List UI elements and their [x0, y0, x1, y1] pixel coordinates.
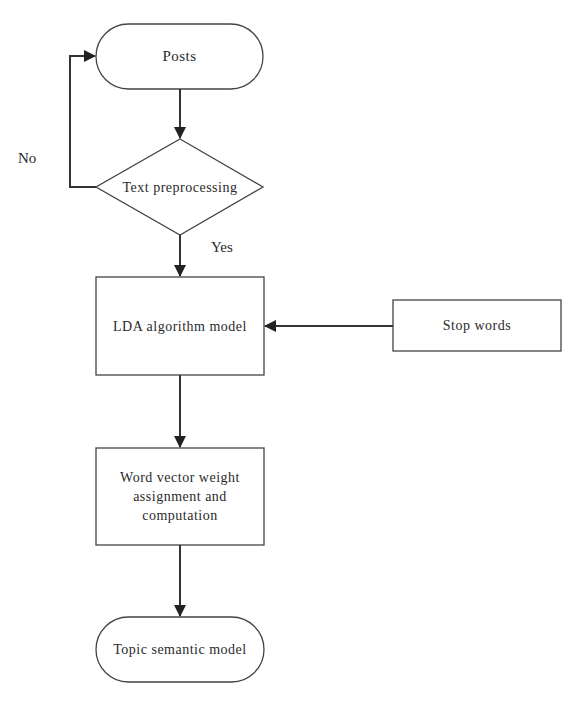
word-vector-label: Word vector weight assignment and comput…	[100, 448, 260, 545]
edge-label-yes: Yes	[211, 239, 233, 256]
edge-label-no: No	[18, 150, 36, 167]
posts-label: Posts	[96, 24, 263, 89]
text-preprocessing-label: Text preprocessing	[110, 165, 250, 209]
topic-model-label: Topic semantic model	[104, 617, 256, 682]
lda-label: LDA algorithm model	[110, 277, 250, 375]
stop-words-label: Stop words	[393, 300, 561, 351]
edge-no-loop	[70, 56, 96, 187]
flowchart-canvas	[0, 0, 585, 709]
